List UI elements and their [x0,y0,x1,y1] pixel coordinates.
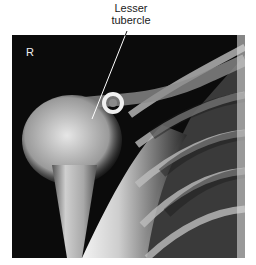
annotation-pointer [0,0,256,265]
pointer-line [92,31,127,119]
pointer-line-top [125,31,127,36]
